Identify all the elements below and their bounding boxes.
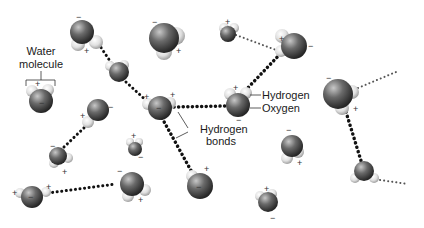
- label-water: Water: [27, 45, 56, 57]
- water-molecule: [105, 60, 129, 82]
- water-molecule: + + −: [142, 90, 176, 120]
- svg-text:−: −: [108, 102, 113, 112]
- bond-line: [380, 180, 408, 184]
- svg-text:−: −: [308, 41, 313, 51]
- water-molecule: + −: [255, 184, 278, 223]
- water-molecule: [350, 161, 379, 183]
- svg-text:+: +: [264, 184, 269, 194]
- water-molecule: +: [219, 17, 239, 42]
- water-hydrogen-bond-diagram: − + − + + − +: [0, 0, 424, 228]
- svg-text:−: −: [117, 166, 122, 176]
- water-molecule-labeled: + −: [26, 79, 54, 113]
- diagram-canvas: − + − + + − +: [0, 0, 424, 228]
- svg-text:−: −: [50, 141, 55, 151]
- water-molecule: + + −: [12, 182, 51, 208]
- svg-text:Hydrogen: Hydrogen: [262, 89, 310, 101]
- svg-text:+: +: [80, 111, 85, 121]
- label-molecule: molecule: [19, 58, 63, 70]
- bond-line: [236, 35, 276, 50]
- bond-line: [174, 106, 226, 107]
- bond-line: [64, 124, 88, 147]
- bond-line: [48, 184, 116, 193]
- svg-text:−: −: [76, 12, 81, 22]
- svg-text:+: +: [84, 46, 89, 56]
- svg-text:−: −: [196, 182, 201, 192]
- water-molecule: + −: [126, 131, 143, 162]
- svg-text:−: −: [286, 125, 291, 135]
- bracket-leader: [26, 71, 55, 86]
- svg-text:+: +: [12, 188, 17, 198]
- water-molecule: − +: [323, 73, 359, 115]
- svg-text:bonds: bonds: [206, 135, 236, 147]
- water-molecule: − +: [117, 166, 151, 205]
- oxygen-label: Oxygen: [250, 102, 300, 114]
- svg-text:−: −: [270, 213, 275, 223]
- svg-text:−: −: [326, 73, 331, 83]
- svg-text:+: +: [35, 79, 40, 89]
- bond-line: [358, 72, 396, 88]
- svg-text:−: −: [28, 192, 33, 202]
- water-molecule: − +: [80, 99, 113, 128]
- svg-text:+: +: [204, 164, 209, 174]
- svg-text:Hydrogen: Hydrogen: [200, 123, 248, 135]
- water-molecule: − +: [149, 17, 185, 60]
- svg-text:+: +: [176, 46, 181, 56]
- svg-text:+: +: [46, 182, 51, 192]
- svg-text:−: −: [152, 17, 157, 27]
- svg-text:+: +: [279, 34, 284, 44]
- water-molecule: − +: [70, 12, 103, 56]
- svg-text:+: +: [225, 17, 230, 27]
- water-molecule-labeled-parts: + −: [224, 83, 252, 125]
- svg-text:Oxygen: Oxygen: [262, 102, 300, 114]
- svg-text:+: +: [297, 158, 302, 168]
- water-molecule: − +: [49, 141, 73, 177]
- bond-line: [346, 112, 362, 164]
- svg-text:+: +: [131, 131, 136, 141]
- water-molecule: + −: [275, 29, 313, 59]
- svg-text:+: +: [138, 195, 143, 205]
- svg-text:+: +: [233, 83, 238, 93]
- svg-text:−: −: [138, 152, 143, 162]
- svg-text:+: +: [62, 167, 67, 177]
- svg-text:+: +: [144, 92, 149, 102]
- svg-text:−: −: [156, 103, 161, 113]
- svg-text:−: −: [39, 98, 44, 108]
- bond-line: [162, 118, 194, 176]
- svg-text:+: +: [170, 90, 175, 100]
- water-molecule-label: Water molecule: [19, 45, 63, 86]
- hydrogen-label: Hydrogen: [250, 89, 310, 101]
- water-molecule: − +: [281, 125, 304, 168]
- svg-text:+: +: [353, 104, 358, 114]
